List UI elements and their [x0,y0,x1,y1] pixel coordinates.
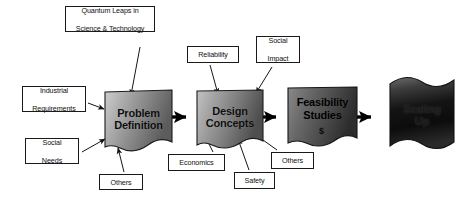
input-box-others-design[interactable]: Others [271,152,314,169]
input-label-social-needs-line1: Social [28,138,76,147]
cost-badge-icon: $ [319,126,324,136]
stage-label-feasibility-studies-line2: Studies [303,109,341,121]
input-label-quantum-leaps-line2: Science & Technology [68,24,152,33]
stage-label-design-concepts-line1: Design [212,105,247,117]
input-label-quantum-leaps-line1: Quantum Leaps in [68,6,152,15]
stage-label-design-concepts-line2: Concepts [206,117,255,129]
input-box-social-impact[interactable]: Social Impact [256,36,300,63]
connector-quantum-leaps [131,47,140,95]
stage-scaling-up[interactable]: Scaling Up [390,84,454,146]
stage-caption-feasibility-studies: Feasibility Studies [297,96,349,121]
stage-caption-design-concepts: Design Concepts [206,105,255,130]
input-label-safety: Safety [237,176,272,185]
input-box-reliability[interactable]: Reliability [187,46,239,63]
input-box-economics[interactable]: Economics [168,154,225,171]
input-box-quantum-leaps[interactable]: Quantum Leaps in Science & Technology [65,6,155,32]
connector-industrial-requirements [88,103,104,109]
input-box-others-problem[interactable]: Others [99,174,143,190]
input-label-social-needs-line2: Needs [28,156,76,165]
connector-others-problem [118,148,124,172]
input-box-safety[interactable]: Safety [234,172,275,189]
stage-caption-scaling-up: Scaling Up [403,103,441,128]
stage-label-problem-definition-line2: Definition [114,119,163,131]
stage-label-feasibility-studies-line1: Feasibility [297,96,349,108]
stage-label-scaling-up-line2: Up [415,115,429,127]
stage-caption-problem-definition: Problem Definition [114,107,163,132]
input-box-social-needs[interactable]: Social Needs [25,138,79,164]
input-label-social-impact-line2: Impact [259,54,297,63]
stage-design-concepts[interactable]: Design Concepts [197,89,263,145]
stage-label-problem-definition-line1: Problem [117,107,160,119]
design-process-diagram: Quantum Leaps in Science & Technology In… [0,0,471,210]
input-label-industrial-requirements-line2: Requirements [25,104,83,113]
input-label-economics: Economics [171,158,222,167]
stage-problem-definition[interactable]: Problem Definition [105,90,172,148]
input-label-reliability: Reliability [190,50,236,59]
input-label-industrial-requirements-line1: Industrial [25,86,83,95]
stage-label-scaling-up-line1: Scaling [403,103,441,115]
input-box-industrial-requirements[interactable]: Industrial Requirements [22,86,86,112]
input-label-others-problem: Others [102,178,140,187]
connector-social-needs [82,139,105,152]
stage-feasibility-studies[interactable]: Feasibility Studies $ [288,86,357,143]
input-label-social-impact-line1: Social [259,36,297,45]
input-label-others-design: Others [274,156,311,165]
